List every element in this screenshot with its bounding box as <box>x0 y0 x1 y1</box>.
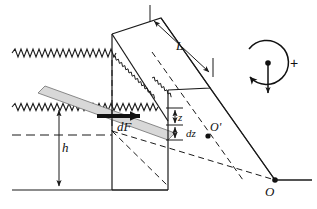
inclined-surface-wavy-line <box>113 56 171 99</box>
depth-label: h <box>62 140 69 155</box>
force-label: dF <box>117 119 133 134</box>
pivot-inner-point <box>205 133 210 138</box>
diagram-canvas: L z dz dF h <box>0 0 317 209</box>
pivot-outer-point <box>272 177 312 183</box>
free-surface-upper <box>12 49 116 57</box>
pivot-inner-label: O' <box>210 120 222 134</box>
positive-sign-label: + <box>290 55 298 71</box>
hydrostatic-force-diagram: L z dz dF h <box>0 0 317 209</box>
pivot-outer-label: O <box>265 184 275 199</box>
length-label: L <box>175 38 183 53</box>
depth-z-label: z <box>177 111 183 123</box>
sign-convention <box>249 40 288 93</box>
inclined-plane <box>112 18 275 190</box>
element-thickness-label: dz <box>186 127 197 139</box>
